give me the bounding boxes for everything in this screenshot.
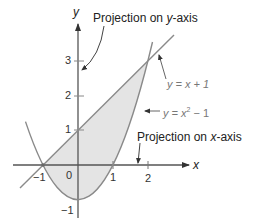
x-tick-label-0: 0: [66, 170, 72, 181]
x-axis-label: x: [193, 159, 199, 171]
proj-x-label: Projection on x-axis: [137, 131, 242, 143]
parabola-equation-label: y = x2 − 1: [163, 106, 209, 119]
proj-y-label: Projection on y-axis: [93, 12, 198, 24]
region-diagram: [0, 0, 258, 224]
y-tick-label-minus-1: −1: [61, 205, 74, 216]
y-axis-label: y: [73, 6, 79, 18]
x-tick-label-minus-1: −1: [33, 172, 46, 183]
line-equation-label: y = x + 1: [167, 79, 209, 90]
line-label-arrow: [159, 55, 166, 79]
proj-x-arrow: [138, 143, 140, 163]
parabola-label-prefix: y = x: [163, 107, 187, 119]
x-tick-label-2: 2: [145, 173, 151, 184]
y-tick-label-1: 1: [65, 124, 71, 135]
intersection-point: [41, 163, 45, 167]
y-tick-label-2: 2: [65, 90, 71, 101]
y-ticks: [74, 61, 84, 130]
proj-y-prefix: Projection on: [93, 11, 166, 25]
proj-x-prefix: Projection on: [137, 130, 210, 144]
proj-y-arrow: [82, 26, 104, 70]
proj-y-suffix: -axis: [172, 11, 197, 25]
proj-x-suffix: -axis: [216, 130, 241, 144]
x-tick-label-1: 1: [110, 172, 116, 183]
parabola-label-suffix: − 1: [190, 107, 209, 119]
shaded-region: [43, 61, 148, 200]
y-tick-label-3: 3: [65, 55, 71, 66]
